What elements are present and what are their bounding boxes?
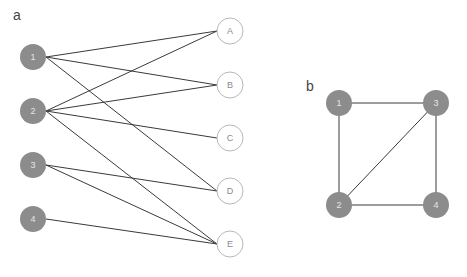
edge-2-A <box>46 31 217 111</box>
edge-1-A <box>46 31 217 57</box>
node-label: C <box>227 133 234 143</box>
panel-label-a: a <box>13 7 21 23</box>
panel-label-b: b <box>306 78 314 94</box>
panel-labels: ab <box>13 7 314 94</box>
node-label: 2 <box>336 200 341 210</box>
node-C: C <box>217 125 243 151</box>
node-E: E <box>217 231 243 257</box>
node-1: 1 <box>326 90 352 116</box>
node-B: B <box>217 72 243 98</box>
edge-3-E <box>46 165 217 244</box>
node-3: 3 <box>423 90 449 116</box>
node-3: 3 <box>20 152 46 178</box>
edge-b-2-3 <box>339 103 436 205</box>
node-label: D <box>227 186 234 196</box>
node-1: 1 <box>20 44 46 70</box>
node-4: 4 <box>423 192 449 218</box>
node-label: A <box>227 26 233 36</box>
node-label: 4 <box>30 214 35 224</box>
graph-diagram: 1234ABCDE1324 ab <box>0 0 467 277</box>
node-label: 1 <box>30 52 35 62</box>
node-2: 2 <box>20 98 46 124</box>
node-label: B <box>227 80 233 90</box>
node-label: E <box>227 239 233 249</box>
node-label: 3 <box>30 160 35 170</box>
diagram-canvas: 1234ABCDE1324 ab <box>0 0 467 277</box>
edge-2-C <box>46 111 217 138</box>
node-label: 4 <box>433 200 438 210</box>
node-4: 4 <box>20 206 46 232</box>
node-label: 2 <box>30 106 35 116</box>
node-label: 1 <box>336 98 341 108</box>
edge-4-E <box>46 219 217 244</box>
node-A: A <box>217 18 243 44</box>
edge-2-B <box>46 85 217 111</box>
edge-3-D <box>46 165 217 191</box>
node-2: 2 <box>326 192 352 218</box>
nodes-layer: 1234ABCDE1324 <box>20 18 449 257</box>
node-label: 3 <box>433 98 438 108</box>
node-D: D <box>217 178 243 204</box>
